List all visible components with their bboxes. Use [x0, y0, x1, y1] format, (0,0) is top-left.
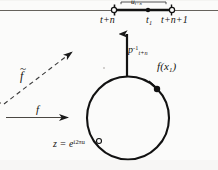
circle-param-lhs: z = e: [53, 138, 74, 149]
circle-point-label: f(x1): [157, 61, 176, 74]
circle-param-exponent: i2πu: [74, 138, 85, 145]
circle-point-label-close: ): [172, 60, 176, 72]
projection-sub: t+n: [138, 49, 147, 56]
axis-tick-mid-sub: 1: [149, 19, 152, 26]
figure-vector-layer: [0, 0, 218, 170]
figure-canvas: ut+n t+n t1 t+n+1 p-1t+n f(x1) ~f f z = …: [0, 0, 218, 170]
scan-speck: [103, 67, 104, 68]
lift-map-label: ~f: [20, 70, 23, 82]
fx1-leader-line: [149, 81, 158, 89]
segment-point-t1: [146, 8, 150, 12]
left-open-endpoint: [111, 7, 116, 12]
circle-parametrization-label: z = ei2πu: [53, 139, 85, 149]
interval-brace: [121, 2, 166, 4]
circle-point-label-open: f(x: [157, 60, 169, 72]
projection-label: p-1t+n: [128, 45, 148, 56]
axis-tick-label-right: t+n+1: [161, 15, 188, 25]
tilde-accent-icon: ~: [20, 63, 23, 74]
interval-length-sub: t+n: [135, 1, 142, 6]
interval-length-label: ut+n: [131, 0, 142, 7]
circle-point-z: [97, 139, 102, 144]
axis-tick-label-left: t+n: [100, 15, 115, 25]
scan-speck: [0, 102, 1, 104]
right-open-endpoint: [169, 7, 174, 12]
axis-tick-label-mid: t1: [146, 15, 152, 26]
map-label: f: [36, 104, 39, 115]
lift-map-symbol: ~f: [20, 70, 23, 82]
lift-arrow-dashed: [4, 52, 72, 104]
